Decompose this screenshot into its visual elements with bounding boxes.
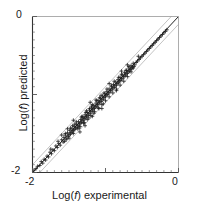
data-point-marker: [49, 147, 53, 151]
x-axis-title-suffix: ) experimental: [77, 189, 147, 201]
data-point-marker: [105, 87, 109, 91]
data-point-marker: [111, 91, 115, 95]
x-axis-title: Log(f) experimental: [0, 189, 199, 201]
data-point-marker: [122, 79, 126, 83]
y-axis-title: Log(f) predicted: [17, 18, 29, 168]
offset-reference-line-0: [33, 9, 179, 165]
y-axis-title-prefix: Log(: [17, 110, 29, 132]
x-axis-title-prefix: Log(: [52, 189, 74, 201]
data-point-marker: [88, 100, 92, 104]
y-axis-title-suffix: ) predicted: [17, 54, 29, 106]
scatter-plot-figure: 0 -2 -2 0 Log(f) experimental Log(f) pre…: [0, 0, 199, 205]
x-axis-tick-label-right: 0: [172, 175, 178, 187]
y-axis-title-symbol: f: [17, 106, 29, 109]
x-axis-tick-label-left: -2: [25, 175, 34, 187]
data-point-marker: [60, 133, 64, 137]
data-point-marker: [56, 139, 60, 143]
